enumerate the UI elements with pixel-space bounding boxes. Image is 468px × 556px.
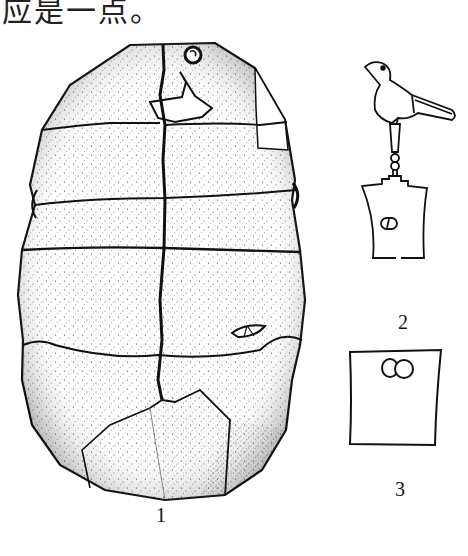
figure-label-1: 1 bbox=[156, 504, 166, 527]
figure-label-2: 2 bbox=[398, 311, 408, 334]
turtle-plastron-drawing bbox=[18, 43, 305, 500]
figure-label-3: 3 bbox=[395, 478, 405, 501]
plaque-drawing bbox=[350, 350, 441, 445]
figure-illustration bbox=[0, 0, 468, 556]
bird-pendant-drawing bbox=[362, 62, 455, 258]
